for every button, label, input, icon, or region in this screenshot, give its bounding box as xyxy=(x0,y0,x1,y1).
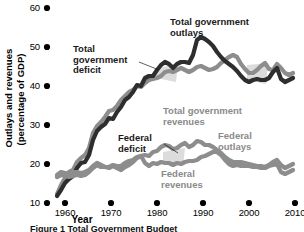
label-federal-deficit-line-1: Federal xyxy=(118,133,152,144)
y-axis-title: Outlays and revenues (percentage of GDP) xyxy=(3,52,26,148)
label-federal-revenues: Federal revenues xyxy=(161,169,203,190)
xtick-label-2010: 2010 xyxy=(278,207,304,218)
label-federal-revenues-line-2: revenues xyxy=(161,180,203,191)
ytick-label-60: 60 xyxy=(18,2,40,13)
label-total-government-revenues-line-1: Total government xyxy=(163,106,242,117)
leader-total-deficit xyxy=(139,62,159,70)
figure-caption: Figure 1 Total Government Budget xyxy=(30,225,304,232)
xtick-dot-2010 xyxy=(292,200,298,206)
y-axis-title-line-2: (percentage of GDP) xyxy=(14,52,26,148)
label-total-government-deficit: Total government deficit xyxy=(73,44,127,76)
ytick-dot-10 xyxy=(44,200,50,206)
label-total-government-deficit-line-3: deficit xyxy=(73,65,127,76)
xtick-label-2000: 2000 xyxy=(232,207,266,218)
xtick-label-1990: 1990 xyxy=(186,207,220,218)
label-federal-outlays: Federal outlays xyxy=(218,131,252,152)
label-federal-outlays-line-1: Federal xyxy=(218,131,252,142)
ytick-label-20: 20 xyxy=(18,158,40,169)
y-axis-title-line-1: Outlays and revenues xyxy=(3,52,15,148)
ytick-label-50: 50 xyxy=(18,41,40,52)
ytick-dot-20 xyxy=(44,161,50,167)
xtick-dot-1990 xyxy=(200,200,206,206)
ytick-dot-40 xyxy=(44,83,50,89)
ytick-label-10: 10 xyxy=(18,197,40,208)
chart-figure: 60 50 40 30 20 10 1960 1970 1980 1990 20… xyxy=(0,0,304,232)
xtick-dot-1980 xyxy=(154,200,160,206)
label-federal-deficit: Federal deficit xyxy=(118,133,152,154)
label-total-government-outlays-line-2: outlays xyxy=(170,28,249,39)
label-federal-revenues-line-1: Federal xyxy=(161,169,203,180)
label-total-government-revenues-line-2: revenues xyxy=(163,117,242,128)
xtick-dot-1960 xyxy=(62,200,68,206)
label-total-government-deficit-line-1: Total xyxy=(73,44,127,55)
xtick-label-1980: 1980 xyxy=(140,207,174,218)
label-federal-outlays-line-2: outlays xyxy=(218,142,252,153)
ytick-dot-30 xyxy=(44,122,50,128)
label-total-government-outlays: Total government outlays xyxy=(170,17,249,38)
label-federal-deficit-line-2: deficit xyxy=(118,144,152,155)
label-total-government-revenues: Total government revenues xyxy=(163,106,242,127)
x-axis-title: Year xyxy=(58,214,106,225)
ytick-dot-60 xyxy=(44,5,50,11)
chart-plot-area xyxy=(0,0,304,232)
xtick-dot-2000 xyxy=(246,200,252,206)
xtick-dot-1970 xyxy=(108,200,114,206)
ytick-dot-50 xyxy=(44,44,50,50)
label-total-government-outlays-line-1: Total government xyxy=(170,17,249,28)
